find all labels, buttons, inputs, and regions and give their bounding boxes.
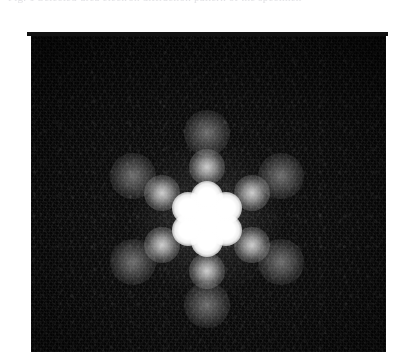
diffraction-figure-panel xyxy=(31,36,386,352)
satellite-spot-4 xyxy=(189,253,225,289)
central-lobe-4 xyxy=(191,225,223,257)
satellite-spot-outer-5 xyxy=(110,239,156,285)
sensor-noise-layer-fine xyxy=(31,36,386,352)
central-lobe-2 xyxy=(210,192,242,224)
central-lobe-1 xyxy=(191,181,223,213)
figure-caption-strip: Fig. 1 Selected-area electron diffractio… xyxy=(0,0,410,10)
satellite-spot-3 xyxy=(234,227,270,263)
image-vignette xyxy=(31,36,386,352)
figure-caption-text: Fig. 1 Selected-area electron diffractio… xyxy=(8,0,408,3)
satellite-spot-6 xyxy=(144,175,180,211)
satellite-spot-1 xyxy=(189,149,225,185)
sensor-noise-layer-speckle xyxy=(31,36,386,352)
satellite-spot-2 xyxy=(234,175,270,211)
sensor-noise-layer-diagonal xyxy=(31,36,386,352)
satellite-spot-outer-1 xyxy=(184,110,230,156)
satellite-spot-outer-3 xyxy=(258,239,304,285)
central-lobe-5 xyxy=(172,214,204,246)
satellite-spot-outer-4 xyxy=(184,282,230,328)
central-lobe-core xyxy=(190,202,224,236)
satellite-spot-outer-2 xyxy=(258,153,304,199)
central-lobe-3 xyxy=(210,214,242,246)
satellite-spot-5 xyxy=(144,227,180,263)
central-halo xyxy=(132,144,282,294)
diffraction-pattern xyxy=(31,36,386,352)
satellite-spot-outer-6 xyxy=(110,153,156,199)
central-lobe-6 xyxy=(172,192,204,224)
